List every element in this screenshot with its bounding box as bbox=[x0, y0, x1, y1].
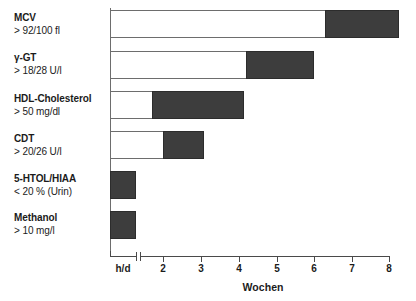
x-tick-label-hd: h/d bbox=[103, 263, 143, 274]
x-tick-6 bbox=[314, 256, 315, 262]
bar-row bbox=[110, 211, 136, 239]
category-sublabel: > 20/26 U/l bbox=[14, 146, 110, 158]
bar-segment-gray bbox=[110, 171, 136, 199]
category-sublabel: > 18/28 U/l bbox=[14, 65, 110, 77]
x-tick-label-3: 3 bbox=[191, 263, 211, 274]
x-tick-label-2: 2 bbox=[153, 263, 173, 274]
x-tick-label-4: 4 bbox=[229, 263, 249, 274]
x-tick-4 bbox=[239, 256, 240, 262]
bar-segment-white bbox=[110, 51, 247, 79]
category-label-methanol: Methanol > 10 mg/l bbox=[14, 212, 110, 237]
category-label-5-htol-hiaa: 5-HTOL/HIAA < 20 % (Urin) bbox=[14, 173, 110, 198]
category-sublabel: > 92/100 fl bbox=[14, 25, 110, 37]
x-axis: h/d 2 3 4 5 6 7 8 Wochen bbox=[110, 256, 416, 301]
category-sublabel: < 20 % (Urin) bbox=[14, 186, 110, 198]
x-tick-8 bbox=[389, 256, 390, 262]
bar-row bbox=[110, 131, 204, 159]
category-name: CDT bbox=[14, 133, 110, 145]
x-tick-label-8: 8 bbox=[379, 263, 399, 274]
bar-segment-gray bbox=[152, 91, 244, 119]
bar-row bbox=[110, 91, 244, 119]
category-name: HDL-Cholesterol bbox=[14, 93, 110, 105]
category-label-gamma-gt: γ-GT > 18/28 U/l bbox=[14, 52, 110, 77]
category-sublabel: > 10 mg/l bbox=[14, 225, 110, 237]
x-tick-label-5: 5 bbox=[267, 263, 287, 274]
bar-segment-gray bbox=[246, 51, 314, 79]
bar-segment-gray bbox=[110, 211, 136, 239]
x-axis-title: Wochen bbox=[110, 281, 416, 293]
x-tick-3 bbox=[201, 256, 202, 262]
bar-row bbox=[110, 10, 400, 38]
bar-segment-gray bbox=[163, 131, 204, 159]
bar-segment-white bbox=[110, 10, 326, 38]
category-name: 5-HTOL/HIAA bbox=[14, 173, 110, 185]
plot-area bbox=[110, 0, 416, 258]
chart-root: MCV > 92/100 fl γ-GT > 18/28 U/l HDL-Cho… bbox=[0, 0, 416, 301]
x-tick-label-6: 6 bbox=[304, 263, 324, 274]
bar-row bbox=[110, 51, 314, 79]
x-tick-5 bbox=[277, 256, 278, 262]
bar-segment-gray bbox=[325, 10, 399, 38]
category-sublabel: > 50 mg/dl bbox=[14, 106, 110, 118]
bar-segment-white bbox=[110, 131, 164, 159]
category-label-hdl-cholesterol: HDL-Cholesterol > 50 mg/dl bbox=[14, 93, 110, 118]
x-axis-line-left bbox=[110, 256, 137, 257]
x-tick-7 bbox=[352, 256, 353, 262]
category-name: MCV bbox=[14, 12, 110, 24]
axis-break-mark-right bbox=[140, 252, 141, 261]
x-tick-2 bbox=[163, 256, 164, 262]
category-name: Methanol bbox=[14, 212, 110, 224]
category-label-cdt: CDT > 20/26 U/l bbox=[14, 133, 110, 158]
bar-row bbox=[110, 171, 136, 199]
bar-segment-white bbox=[110, 91, 153, 119]
category-name: γ-GT bbox=[14, 52, 110, 64]
x-tick-label-7: 7 bbox=[342, 263, 362, 274]
category-label-mcv: MCV > 92/100 fl bbox=[14, 12, 110, 37]
x-axis-left-cap bbox=[110, 251, 111, 257]
category-label-column: MCV > 92/100 fl γ-GT > 18/28 U/l HDL-Cho… bbox=[0, 0, 110, 258]
axis-break-mark-left bbox=[136, 252, 137, 261]
